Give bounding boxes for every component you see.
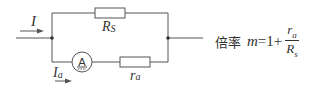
junction-left-dot [50, 36, 54, 40]
formula-prefix: 倍率 [215, 32, 241, 51]
shunt-resistor [95, 8, 125, 18]
formula-fraction: ra Rs [284, 23, 299, 58]
label-ra: ra [130, 68, 140, 83]
label-Rs: RS [101, 19, 116, 34]
label-Ia: Ia [52, 65, 63, 80]
ammeter-label: A [78, 56, 86, 69]
formula-equals: =1+ [258, 33, 282, 50]
formula-variable: m [247, 33, 258, 50]
multiplier-formula: 倍率 m =1+ ra Rs [215, 26, 300, 56]
fraction-denominator: Rs [284, 41, 299, 59]
junction-right-dot [166, 36, 170, 40]
fraction-numerator: ra [285, 23, 299, 41]
label-I: I [30, 13, 37, 29]
arrowhead-Ia-icon [65, 79, 72, 84]
arrowhead-I-icon [37, 29, 44, 34]
internal-resistor [120, 57, 150, 67]
